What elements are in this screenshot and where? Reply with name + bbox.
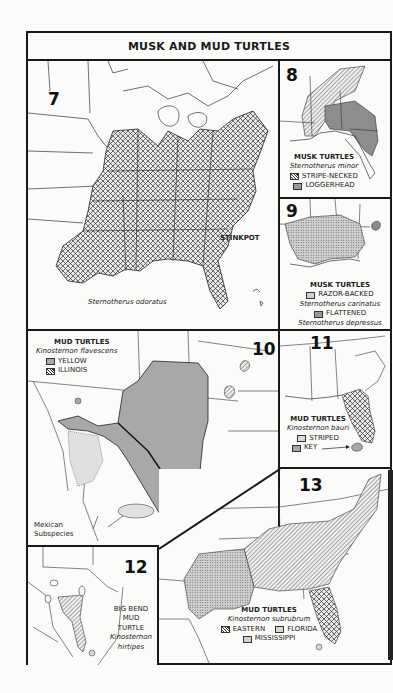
legend-illinois: ILLINOIS (36, 366, 117, 375)
map-13-group: MUD TURTLES (209, 606, 329, 615)
stinkpot-range (56, 111, 268, 309)
map-number-7: 7 (48, 89, 60, 109)
legend-stripe-necked: STRIPE-NECKED (284, 172, 364, 181)
map-panel-12: 12 BIG BEND MUD TURTLE Kinosternon hirti… (28, 545, 159, 665)
legend-row-1: EASTERN FLORIDA (209, 625, 329, 634)
map-number-9: 9 (286, 201, 298, 221)
legend-florida: FLORIDA (275, 625, 317, 634)
map-number-10: 10 (252, 339, 276, 359)
map-10-scientific: Kinosternon flavescens (36, 347, 117, 356)
map-8-legend: MUSK TURTLES Sternotherus minor STRIPE-N… (284, 153, 364, 191)
diagonal-hatch-swatch-icon (46, 368, 55, 375)
map-8-group: MUSK TURTLES (284, 153, 364, 162)
map-11-legend: MUD TURTLES Kinosternon bauri STRIPED KE… (284, 415, 352, 453)
map-number-13: 13 (299, 475, 323, 495)
key-range (352, 443, 363, 451)
crosshatch-swatch-icon (275, 626, 284, 633)
map-panel-8: 8 MUSK TURTLES Sternotherus minor STRIPE… (280, 61, 390, 199)
map-11-scientific: Kinosternon bauri (284, 424, 352, 433)
stipple-swatch-icon (306, 292, 315, 299)
map-9-group: MUSK TURTLES (290, 281, 390, 290)
legend-key: KEY (284, 443, 352, 452)
map-9-legend: MUSK TURTLES RAZOR-BACKED Sternotherus c… (290, 281, 390, 328)
map-7-graphic (28, 61, 278, 329)
map-11-group: MUD TURTLES (284, 415, 352, 424)
gray-swatch-icon (46, 358, 55, 365)
mexican-subspecies-label: Mexican Subspecies (34, 521, 73, 540)
big-bend-range (58, 595, 86, 652)
map-12-legend: BIG BEND MUD TURTLE Kinosternon hirtipes (108, 605, 154, 652)
diagonal-hatch-swatch-icon (290, 173, 299, 180)
stipple-swatch-icon (243, 636, 252, 643)
map-number-11: 11 (310, 333, 334, 353)
legend-flattened: FLATTENED (290, 309, 390, 318)
illinois-range (224, 361, 249, 398)
page-title: MUSK AND MUD TURTLES (28, 33, 390, 61)
map-10-group: MUD TURTLES (36, 338, 117, 347)
map-number-12: 12 (124, 557, 148, 577)
legend-yellow: YELLOW (36, 357, 117, 366)
stinkpot-scientific-name: Sternotherus odoratus (88, 298, 167, 307)
legend-mississippi: MISSISSIPPI (209, 634, 329, 643)
map-number-8: 8 (286, 65, 298, 85)
map-10-legend: MUD TURTLES Kinosternon flavescens YELLO… (36, 338, 117, 376)
map-plate-frame: MUSK AND MUD TURTLES 7 STINKPOT Sternoth… (26, 31, 392, 665)
crosshatch-swatch-icon (297, 435, 306, 442)
page-edge-shadow (388, 470, 393, 660)
stinkpot-label: STINKPOT (220, 234, 260, 243)
map-13-legend: MUD TURTLES Kinosternon subrubrum EASTER… (209, 606, 329, 644)
gray-swatch-icon (292, 445, 301, 452)
dark-stipple-swatch-icon (314, 311, 323, 318)
map-13-scientific: Kinosternon subrubrum (209, 615, 329, 624)
razor-backed-scientific: Sternotherus carinatus (290, 300, 390, 309)
flattened-scientific: Sternotherus depressus (290, 319, 390, 328)
map-panel-9: 9 MUSK TURTLES RAZOR-BACKED Sternotherus… (280, 199, 390, 331)
map-8-scientific: Sternotherus minor (284, 162, 364, 171)
map-panel-11: 11 MUD TURTLES Kinosternon bauri STRIPED… (280, 331, 390, 469)
stipple-swatch-icon (293, 183, 302, 190)
legend-loggerhead: LOGGERHEAD (284, 181, 364, 190)
map-panel-13: 13 MUD TURTLES Kinosternon subrubrum EAS… (159, 469, 390, 663)
map-panel-7: 7 STINKPOT Sternotherus odoratus (28, 61, 280, 331)
diagonal-hatch-swatch-icon (221, 626, 230, 633)
legend-striped: STRIPED (284, 434, 352, 443)
legend-eastern: EASTERN (221, 625, 265, 634)
legend-razor-backed: RAZOR-BACKED (290, 290, 390, 299)
